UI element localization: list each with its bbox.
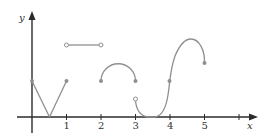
closed-point [30, 79, 34, 83]
closed-point [134, 79, 138, 83]
closed-point [65, 79, 69, 83]
s-curve-piece [134, 39, 207, 117]
x-axis-label: x [247, 120, 253, 131]
open-point [65, 43, 69, 47]
closed-point [99, 79, 103, 83]
open-point [134, 97, 138, 101]
arch-piece [99, 64, 138, 83]
open-point [99, 43, 103, 47]
horizontal-segment-piece [65, 43, 104, 47]
x-tick-label-4: 4 [167, 120, 173, 131]
x-tick-label-3: 3 [133, 120, 139, 131]
function-graph: y x 1 2 3 4 5 [0, 0, 266, 137]
v-shape-piece [30, 79, 69, 117]
closed-point [203, 61, 207, 65]
x-tick-label-5: 5 [202, 120, 208, 131]
y-axis-label: y [18, 12, 25, 23]
x-tick-label-1: 1 [64, 120, 70, 131]
axes: y x 1 2 3 4 5 [17, 11, 258, 133]
y-axis-arrow-icon [29, 11, 36, 20]
closed-point [168, 79, 172, 83]
x-tick-label-2: 2 [98, 120, 104, 131]
